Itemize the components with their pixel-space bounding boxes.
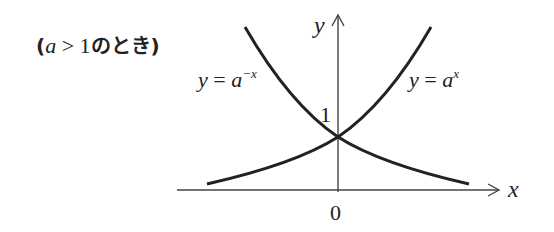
y-intercept-label: 1 <box>320 102 331 128</box>
label-a-pow-x: y = ax <box>409 66 459 93</box>
caption-op: > <box>56 33 79 58</box>
condition-caption: (a > 1のとき) <box>36 30 160 59</box>
caption-num: 1 <box>80 33 91 58</box>
curve-a-pow-neg-x <box>245 27 469 184</box>
caption-open-paren: ( <box>36 34 45 58</box>
caption-var: a <box>45 33 56 58</box>
y-axis-label: y <box>314 12 325 39</box>
caption-close-paren: ) <box>151 34 160 58</box>
origin-label: 0 <box>330 200 341 226</box>
x-axis-label: x <box>508 176 519 203</box>
label-a-pow-neg-x: y = a−x <box>198 66 257 93</box>
caption-japanese: のとき <box>91 34 151 58</box>
curve-a-pow-x <box>207 27 431 184</box>
